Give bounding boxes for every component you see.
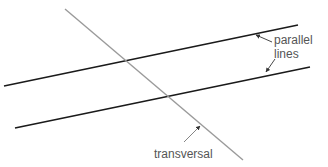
parallel-arrow-upper-icon — [256, 35, 272, 42]
parallel-line-upper — [4, 25, 298, 86]
diagram-canvas: parallel lines transversal — [0, 0, 328, 167]
parallel-line-lower — [15, 67, 310, 128]
transversal-arrow-icon — [184, 126, 200, 142]
parallel-label-line1: parallel — [274, 33, 313, 47]
transversal-label: transversal — [154, 147, 213, 161]
transversal-line — [65, 9, 243, 160]
parallel-label-line2: lines — [274, 47, 299, 61]
